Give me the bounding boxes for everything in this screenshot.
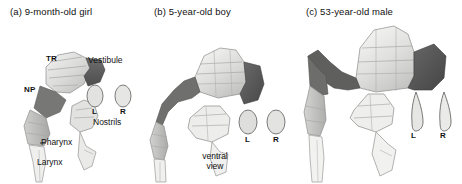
panel-a-artwork bbox=[0, 0, 152, 184]
label-nostril-left: L bbox=[245, 136, 250, 144]
panel-c-title: (c) 53-year-old male bbox=[306, 6, 393, 17]
figure-panel-series: (a) 9-month-old girl bbox=[0, 0, 462, 184]
label-larynx: Larynx bbox=[37, 158, 63, 167]
label-ventral-view: ventral view bbox=[195, 152, 235, 171]
label-pharynx: Pharynx bbox=[41, 138, 72, 147]
panel-b: (b) 5-year-old boy bbox=[148, 0, 300, 184]
label-nostril-right: R bbox=[120, 108, 126, 116]
label-tr: TR bbox=[46, 55, 57, 63]
label-nostril-left: L bbox=[411, 132, 416, 140]
label-ventral-view-line2: view bbox=[206, 161, 223, 171]
panel-c-artwork bbox=[296, 0, 462, 184]
panel-a: (a) 9-month-old girl bbox=[0, 0, 152, 184]
label-nostril-right: R bbox=[440, 132, 446, 140]
panel-c: (c) 53-year-old male bbox=[296, 0, 462, 184]
label-nostril-right: R bbox=[273, 136, 279, 144]
label-ventral-view-line1: ventral bbox=[202, 151, 228, 161]
label-nostrils: Nostrils bbox=[93, 118, 121, 127]
panel-a-title: (a) 9-month-old girl bbox=[10, 6, 92, 17]
panel-b-title: (b) 5-year-old boy bbox=[154, 6, 231, 17]
label-vestibule: Vestibule bbox=[88, 56, 123, 65]
label-nostril-left: L bbox=[92, 108, 97, 116]
label-np: NP bbox=[24, 86, 36, 94]
